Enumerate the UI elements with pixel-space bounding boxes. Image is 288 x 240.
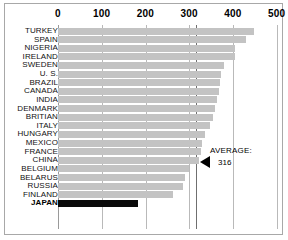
- bar[interactable]: [58, 140, 202, 147]
- plot-area: TURKEYSPAINNIGERIAIRELANDSWEDENU. S.BRAZ…: [5, 25, 284, 233]
- x-axis-tick-200: 200: [137, 8, 154, 19]
- x-axis: 0100200300400500: [5, 4, 284, 26]
- average-label: AVERAGE:: [210, 146, 252, 155]
- bar-row[interactable]: JAPAN: [5, 199, 284, 208]
- bar[interactable]: [58, 79, 220, 86]
- bar[interactable]: [58, 165, 189, 172]
- bar[interactable]: [58, 62, 224, 69]
- bar[interactable]: [58, 36, 246, 43]
- bar-label-japan: JAPAN: [0, 198, 58, 207]
- bar[interactable]: [58, 114, 213, 121]
- bar[interactable]: [58, 45, 235, 52]
- bar[interactable]: [58, 53, 235, 60]
- chart-frame: 0100200300400500 TURKEYSPAINNIGERIAIRELA…: [4, 3, 283, 235]
- bar[interactable]: [58, 96, 217, 103]
- x-axis-tick-300: 300: [181, 8, 198, 19]
- bar[interactable]: [58, 71, 221, 78]
- bar[interactable]: [58, 183, 183, 190]
- bar[interactable]: [58, 174, 185, 181]
- bar[interactable]: [58, 157, 199, 164]
- x-axis-tick-500: 500: [268, 8, 285, 19]
- bar[interactable]: [58, 148, 201, 155]
- bar[interactable]: [58, 191, 173, 198]
- bar[interactable]: [58, 122, 210, 129]
- bar[interactable]: [58, 28, 254, 35]
- bar[interactable]: [58, 105, 215, 112]
- bar[interactable]: [58, 200, 138, 207]
- bar[interactable]: [58, 131, 205, 138]
- average-triangle-icon: [200, 156, 210, 168]
- x-axis-tick-100: 100: [93, 8, 110, 19]
- average-value: 316: [218, 158, 231, 167]
- bar[interactable]: [58, 88, 219, 95]
- x-axis-tick-400: 400: [224, 8, 241, 19]
- average-annotation: AVERAGE: 316: [201, 146, 281, 186]
- x-axis-tick-0: 0: [55, 8, 61, 19]
